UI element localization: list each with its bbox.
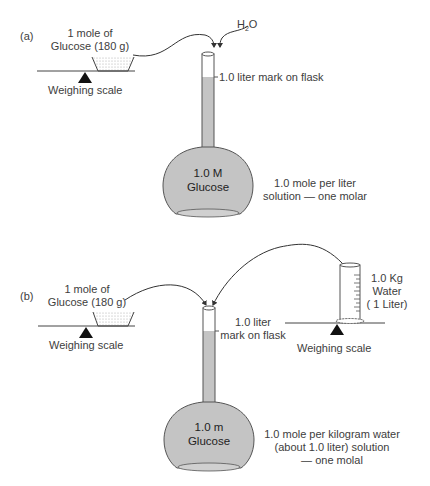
panel-b-glucose-arrow	[125, 285, 206, 305]
panel-a-mark-label: 1.0 liter mark on flask	[219, 71, 324, 84]
panel-b-label: (b)	[20, 290, 33, 303]
panel-b-flask-label: 1.0 m Glucose	[179, 420, 239, 448]
panel-b-mark-label: 1.0 liter mark on flask	[218, 316, 288, 342]
panel-a-scale-label: Weighing scale	[48, 84, 122, 97]
panel-a-flask-label: 1.0 M Glucose	[178, 166, 238, 194]
panel-b-glucose-label: 1 mole of Glucose (180 g)	[42, 283, 132, 309]
panel-b-left-scale-label: Weighing scale	[49, 339, 123, 352]
panel-a-scale	[37, 57, 135, 83]
panel-b-water-arrow	[213, 244, 343, 305]
panel-a-glucose-label: 1 mole of Glucose (180 g)	[45, 27, 135, 53]
panel-b-right-scale-label: Weighing scale	[297, 342, 371, 355]
panel-a-description: 1.0 mole per liter solution — one molar	[250, 177, 380, 203]
diagram-canvas	[0, 0, 430, 486]
panel-a-glucose-arrow	[133, 34, 214, 56]
panel-b-water-label: 1.0 Kg Water ( 1 Liter)	[362, 272, 412, 311]
panel-a-label: (a)	[20, 30, 33, 43]
panel-b-left-scale	[38, 312, 135, 338]
panel-a-water-label: H2O	[237, 18, 257, 35]
panel-b-description: 1.0 mole per kilogram water (about 1.0 l…	[252, 428, 412, 467]
